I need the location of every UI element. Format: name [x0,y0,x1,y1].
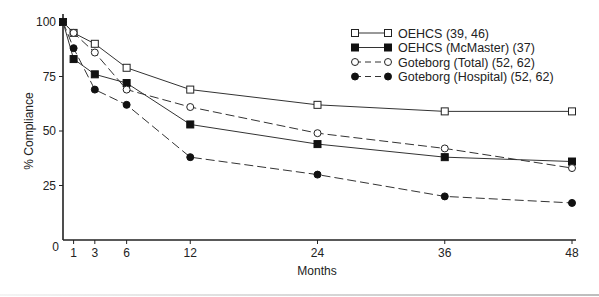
open-circle-legend-icon [352,59,359,66]
filled-square-marker-icon [441,154,448,161]
y-tick-label: 50 [43,124,57,138]
open-square-marker-icon [187,86,194,93]
legend-label: OEHCS (39, 46) [398,27,489,41]
filled-square-marker-icon [123,80,130,87]
filled-circle-legend-icon [385,73,392,80]
open-circle-marker-icon [70,29,77,36]
open-circle-legend-icon [385,59,392,66]
y-tick-label: 75 [43,70,57,84]
x-tick-label: 12 [184,246,198,260]
x-tick-label: 48 [565,246,579,260]
filled-circle-marker-icon [569,199,576,206]
legend-label: Goteborg (Total) (52, 62) [398,56,535,70]
open-circle-marker-icon [441,145,448,152]
bottom-divider [0,294,599,296]
open-square-marker-icon [314,101,321,108]
x-tick-label: 0 [52,240,59,254]
legend-label: OEHCS (McMaster) (37) [398,41,535,55]
open-square-marker-icon [441,108,448,115]
y-tick-label: 25 [43,179,57,193]
open-circle-marker-icon [91,49,98,56]
filled-circle-marker-icon [70,45,77,52]
filled-circle-marker-icon [314,171,321,178]
filled-circle-legend-icon [352,73,359,80]
filled-circle-marker-icon [187,154,194,161]
open-circle-marker-icon [314,130,321,137]
legend-item: Goteborg (Total) (52, 62) [352,56,535,70]
filled-circle-marker-icon [123,101,130,108]
filled-square-legend-icon [352,44,359,51]
filled-circle-marker-icon [91,86,98,93]
open-circle-marker-icon [187,104,194,111]
x-tick-label: 6 [123,246,130,260]
compliance-line-chart: 013612243648255075100 OEHCS (39, 46)OEHC… [0,0,599,297]
filled-square-marker-icon [91,71,98,78]
legend-item: OEHCS (39, 46) [352,27,490,41]
filled-circle-marker-icon [60,19,67,26]
open-square-marker-icon [91,40,98,47]
x-tick-label: 24 [311,246,325,260]
open-square-legend-icon [352,30,359,37]
y-tick-label: 100 [36,15,56,29]
x-axis-label: Months [297,264,336,278]
open-square-legend-icon [385,30,392,37]
legend: OEHCS (39, 46)OEHCS (McMaster) (37)Goteb… [352,27,554,85]
open-square-marker-icon [123,64,130,71]
open-circle-marker-icon [569,165,576,172]
y-axis-label: % Compliance [22,92,36,170]
open-circle-marker-icon [123,86,130,93]
filled-square-marker-icon [314,141,321,148]
filled-square-marker-icon [70,56,77,63]
x-tick-label: 36 [438,246,452,260]
filled-circle-marker-icon [441,193,448,200]
x-tick-label: 3 [91,246,98,260]
legend-label: Goteborg (Hospital) (52, 62) [398,70,554,84]
legend-item: Goteborg (Hospital) (52, 62) [352,70,554,84]
legend-item: OEHCS (McMaster) (37) [352,41,535,55]
filled-square-marker-icon [569,158,576,165]
x-tick-label: 1 [70,246,77,260]
open-square-marker-icon [569,108,576,115]
filled-square-marker-icon [187,121,194,128]
filled-square-legend-icon [385,44,392,51]
